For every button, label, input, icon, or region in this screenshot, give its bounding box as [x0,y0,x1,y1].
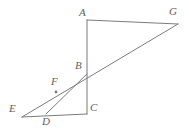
vertex-label-b: B [75,60,82,71]
vertex-label-d: D [42,116,50,127]
segment-E-G [22,24,178,117]
vertex-label-e: E [9,103,16,114]
segments-group [22,20,178,117]
geometry-figure: ABCDEFG [0,0,189,136]
segment-A-G [87,20,178,24]
vertex-label-f: F [51,76,58,87]
segment-E-C [22,114,87,117]
point-F-marker [55,91,58,94]
figure-canvas [0,0,189,136]
vertex-label-g: G [169,6,177,17]
markers-group [55,91,58,94]
vertex-label-c: C [90,102,97,113]
vertex-label-a: A [79,7,86,18]
